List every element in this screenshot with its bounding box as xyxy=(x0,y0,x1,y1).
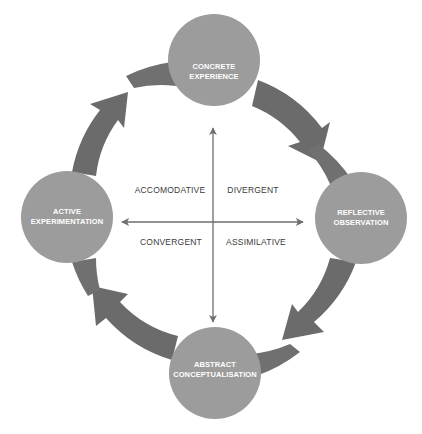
stage-label-line1: ACTIVE xyxy=(31,207,103,217)
stage-label-concrete-experience: CONCRETE EXPERIENCE xyxy=(189,62,238,82)
stage-label-line2: CONCEPTUALISATION xyxy=(173,370,257,380)
arrow-experimentation-to-experience xyxy=(72,92,128,176)
arrow-observation-to-conceptualisation xyxy=(282,258,356,340)
stage-label-line1: REFLECTIVE xyxy=(334,208,389,218)
stage-circle-concrete-experience xyxy=(168,14,260,106)
arrow-conceptualisation-to-experimentation xyxy=(92,286,178,360)
stage-label-line2: OBSERVATION xyxy=(334,218,389,228)
stage-label-line2: EXPERIENCE xyxy=(189,72,238,82)
stage-label-line2: EXPERIMENTATION xyxy=(31,217,103,227)
stage-label-line1: ABSTRACT xyxy=(173,360,257,370)
stage-label-reflective-observation: REFLECTIVE OBSERVATION xyxy=(334,208,389,228)
quadrant-label-assimilative: ASSIMILATIVE xyxy=(226,237,286,247)
axes xyxy=(122,128,303,322)
stage-label-abstract-conceptualisation: ABSTRACT CONCEPTUALISATION xyxy=(173,360,257,380)
quadrant-label-divergent: DIVERGENT xyxy=(227,185,278,195)
stage-label-line1: CONCRETE xyxy=(189,62,238,72)
quadrant-label-accomodative: ACCOMODATIVE xyxy=(135,185,206,195)
quadrant-label-convergent: CONVERGENT xyxy=(140,237,202,247)
band-into-active-experimentation xyxy=(72,258,100,296)
stage-label-active-experimentation: ACTIVE EXPERIMENTATION xyxy=(31,207,103,227)
